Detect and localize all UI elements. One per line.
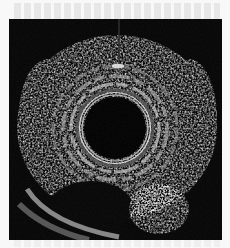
ghost-text-bleed [14, 11, 220, 19]
ghost-text-bleed [14, 240, 220, 247]
ghost-text-bleed [14, 3, 220, 11]
page [0, 0, 230, 248]
ultrasound-image [9, 19, 222, 240]
